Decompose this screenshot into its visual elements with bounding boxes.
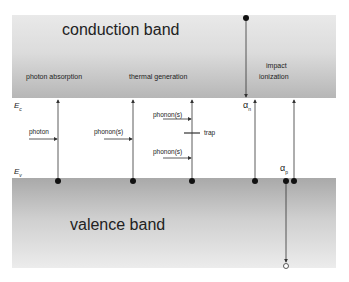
transition-lines — [0, 0, 349, 282]
